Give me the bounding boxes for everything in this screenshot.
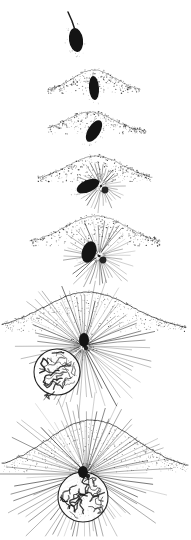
fertilization-plate: Spermatozoon approaching the egg surface… — [0, 0, 191, 540]
centrosome — [86, 474, 90, 478]
egg-nucleus — [58, 472, 108, 522]
centrosome — [84, 346, 88, 350]
centrosome — [100, 257, 107, 264]
centrosome — [102, 187, 109, 194]
plate-canvas: Spermatozoon approaching the egg surface… — [0, 0, 191, 540]
